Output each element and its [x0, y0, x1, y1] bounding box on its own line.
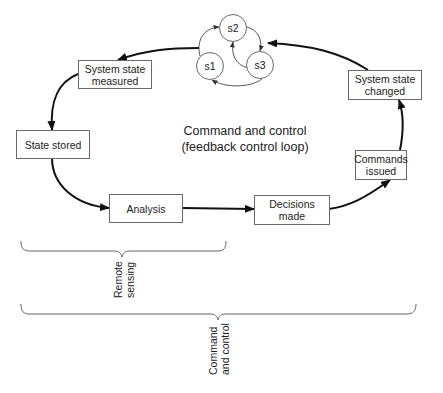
edge-stored-to-analysis: [52, 158, 109, 208]
edge-measured-to-stored: [52, 74, 78, 130]
edge-decisions-to-commands: [329, 180, 390, 209]
edge-changed-to-statemachine: [268, 43, 368, 70]
node-label: Commands issued: [354, 153, 408, 177]
state-s1: s1: [196, 52, 224, 80]
brace-remote-sensing: [21, 241, 226, 257]
loop-title: Command and control (feedback control lo…: [150, 123, 340, 155]
node-label: System state measured: [85, 63, 146, 87]
edge-s2-to-s3: [247, 27, 261, 51]
node-commands-issued: Commands issued: [355, 150, 407, 180]
node-decisions-made: Decisions made: [254, 195, 330, 225]
node-label: State stored: [25, 139, 82, 151]
state-s2-label: s2: [227, 22, 238, 34]
state-s3: s3: [246, 51, 274, 79]
node-label: Analysis: [126, 203, 165, 215]
edge-commands-to-changed: [399, 100, 403, 150]
node-system-state-measured: System state measured: [78, 60, 152, 89]
brace-command-and-control: [21, 304, 416, 320]
brace-label-command-and-control: Command and control: [207, 323, 231, 375]
node-analysis: Analysis: [109, 194, 183, 223]
node-system-state-changed: System state changed: [348, 70, 422, 100]
brace-label-remote-sensing: Remote sensing: [112, 261, 136, 298]
state-s1-label: s1: [204, 60, 215, 72]
state-s3-label: s3: [254, 59, 265, 71]
edge-analysis-to-decisions: [182, 208, 254, 209]
node-label: System state changed: [355, 73, 416, 97]
edge-statemachine-to-measured: [118, 48, 199, 60]
edge-s3-to-s1: [212, 79, 262, 86]
node-state-stored: State stored: [16, 130, 90, 159]
state-s2: s2: [219, 14, 247, 42]
node-label: Decisions made: [269, 198, 315, 222]
